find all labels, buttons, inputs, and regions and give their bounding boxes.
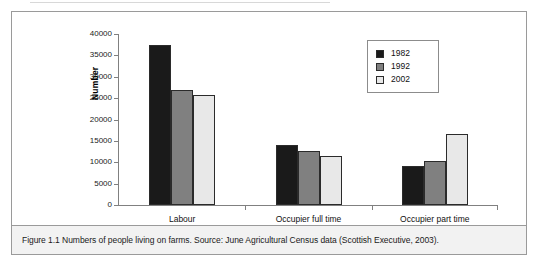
category-label: Labour: [169, 214, 195, 224]
x-axis-separator: [497, 205, 498, 210]
bar: [424, 161, 446, 205]
x-axis-separator: [245, 205, 246, 210]
y-tick-label: 10000: [90, 158, 112, 166]
y-tick-label: 5000: [94, 180, 112, 188]
category-label: Occupier full time: [276, 214, 342, 224]
legend-item: 1982: [376, 47, 431, 60]
legend-label: 1992: [391, 62, 410, 71]
page-rule-artifact: [30, 2, 330, 3]
bar: [276, 145, 298, 205]
figure-caption-band: Figure 1.1 Numbers of people living on f…: [12, 225, 526, 254]
legend-label: 1982: [391, 49, 410, 58]
figure-caption-text: Figure 1.1 Numbers of people living on f…: [12, 235, 439, 245]
legend-item: 2002: [376, 73, 431, 86]
bar: [402, 166, 424, 205]
legend-rows: 198219922002: [376, 47, 431, 86]
chart-legend: 198219922002: [367, 40, 439, 93]
y-tick-label: 20000: [90, 116, 112, 124]
bar: [149, 45, 171, 205]
bar: [171, 90, 193, 205]
bar: [446, 134, 468, 205]
bar: [320, 156, 342, 205]
x-axis-separator: [372, 205, 373, 210]
y-tick-label: 0: [108, 201, 112, 209]
y-tick-label: 40000: [90, 30, 112, 38]
y-tick-label: 15000: [90, 137, 112, 145]
y-tick-label: 25000: [90, 94, 112, 102]
x-axis-line: [118, 205, 498, 206]
figure-root: Number 050001000015000200002500030000350…: [0, 0, 540, 267]
legend-item: 1992: [376, 60, 431, 73]
figure-box: Number 050001000015000200002500030000350…: [11, 11, 527, 255]
bars-layer: [119, 34, 498, 205]
chart-plot-area: Number 050001000015000200002500030000350…: [12, 12, 526, 225]
bar: [193, 95, 215, 205]
legend-swatch-icon: [376, 50, 384, 58]
bar: [298, 151, 320, 205]
category-label: Occupier part time: [400, 214, 469, 224]
chart-axes: 0500010000150002000025000300003500040000…: [118, 34, 498, 216]
y-tick-mark: [114, 205, 119, 206]
y-tick-label: 30000: [90, 73, 112, 81]
legend-label: 2002: [391, 75, 410, 84]
legend-swatch-icon: [376, 76, 384, 84]
legend-swatch-icon: [376, 63, 384, 71]
y-tick-label: 35000: [90, 51, 112, 59]
